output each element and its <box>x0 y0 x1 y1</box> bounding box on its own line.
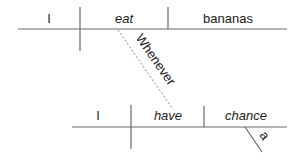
sentence-diagram: I eat bananas Whenever I have chance a <box>0 0 303 160</box>
subordinate-object: chance <box>225 108 267 123</box>
subordinate-subject: I <box>96 108 100 123</box>
connector-word: Whenever <box>133 31 179 89</box>
object-modifier: a <box>256 128 273 143</box>
main-subject: I <box>47 11 51 26</box>
main-verb: eat <box>115 11 134 26</box>
subordinate-verb: have <box>154 108 182 123</box>
main-object: bananas <box>203 11 253 26</box>
